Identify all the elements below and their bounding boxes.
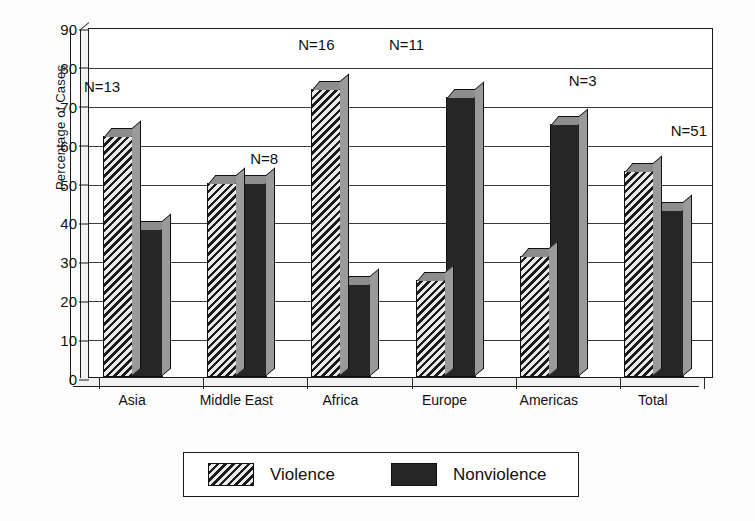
y-axis-tick-label: 20 — [31, 294, 89, 309]
bar-side-face — [370, 268, 379, 376]
y-axis-tick-label: 50 — [31, 177, 89, 192]
bar-side-face — [475, 81, 484, 376]
x-axis-label-americas: Americas — [520, 392, 578, 408]
plot-floor — [72, 378, 706, 387]
legend-item-nonviolence[interactable]: Nonviolence — [391, 463, 547, 486]
bar-side-face — [653, 155, 662, 376]
bar-americas-violence — [520, 256, 550, 377]
gridline — [89, 107, 712, 108]
annotation-n-americas: N=3 — [569, 72, 597, 89]
legend-label-violence: Violence — [270, 465, 335, 485]
bar-side-face — [236, 167, 245, 376]
legend-swatch-violence-icon — [208, 463, 254, 486]
x-axis-label-middle-east: Middle East — [200, 392, 273, 408]
x-axis-tick — [620, 377, 621, 389]
y-axis-tick-label: 60 — [31, 138, 89, 153]
plot-area: 0102030405060708090 — [88, 28, 713, 378]
bar-side-face — [579, 109, 588, 376]
x-axis-label-asia: Asia — [118, 392, 145, 408]
chart-legend: Violence Nonviolence — [183, 452, 579, 497]
y-axis-tick-label: 80 — [31, 60, 89, 75]
gridline — [89, 223, 712, 224]
gridline — [89, 185, 712, 186]
x-axis-label-europe: Europe — [422, 392, 467, 408]
gridline — [89, 262, 712, 263]
y-axis-tick-label: 40 — [31, 216, 89, 231]
annotation-n-middle-east: N=8 — [250, 150, 278, 167]
bar-europe-violence — [416, 280, 446, 377]
y-axis-tick-label: 30 — [31, 255, 89, 270]
bar-side-face — [340, 74, 349, 376]
x-axis-tick — [307, 377, 308, 389]
y-axis-tick-label: 10 — [31, 333, 89, 348]
bar-middle-east-violence — [207, 183, 237, 377]
gridline — [89, 301, 712, 302]
annotation-n-asia: N=13 — [84, 78, 120, 95]
bar-side-face — [549, 241, 558, 376]
x-axis-tick — [704, 377, 705, 389]
annotation-n-africa: N=16 — [298, 36, 334, 53]
x-axis-label-total: Total — [638, 392, 668, 408]
legend-item-violence[interactable]: Violence — [208, 463, 335, 486]
bar-side-face — [162, 214, 171, 376]
bar-africa-violence — [311, 89, 341, 377]
legend-swatch-nonviolence-icon — [391, 463, 437, 486]
annotation-n-total: N=51 — [671, 122, 707, 139]
gridline — [89, 68, 712, 69]
bar-side-face — [445, 264, 454, 376]
bar-side-face — [683, 194, 692, 376]
gridline — [89, 340, 712, 341]
x-axis-tick — [412, 377, 413, 389]
bar-side-face — [266, 167, 275, 376]
y-axis-tick-label: 0 — [31, 372, 89, 387]
x-axis-tick — [516, 377, 517, 389]
bar-total-violence — [624, 171, 654, 377]
annotation-n-europe: N=11 — [389, 36, 424, 53]
legend-label-nonviolence: Nonviolence — [453, 465, 547, 485]
chart-page: Percentage of Cases 0102030405060708090 … — [0, 0, 755, 521]
y-axis-tick-label: 70 — [31, 99, 89, 114]
y-axis-line — [70, 28, 71, 384]
x-axis-tick — [99, 377, 100, 389]
gridline — [89, 146, 712, 147]
bar-side-face — [132, 120, 141, 376]
bar-asia-violence — [103, 136, 133, 377]
x-axis-label-africa: Africa — [323, 392, 359, 408]
x-axis-tick — [203, 377, 204, 389]
y-axis-tick-label: 90 — [31, 22, 89, 37]
